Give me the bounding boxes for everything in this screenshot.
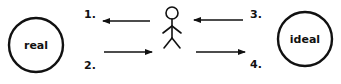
diagram-canvas: real 1. 2. 3. 4. ideal xyxy=(0,0,341,84)
arrow-number-2: 2. xyxy=(84,59,96,72)
ideal-label: ideal xyxy=(290,33,320,46)
arrow-number-4: 4. xyxy=(250,58,262,71)
ideal-node: ideal xyxy=(278,12,332,66)
arrow-number-1: 1. xyxy=(84,8,96,21)
real-label: real xyxy=(24,39,48,52)
real-node: real xyxy=(9,18,63,72)
arrow-number-3: 3. xyxy=(250,8,262,21)
person-icon xyxy=(163,7,181,48)
